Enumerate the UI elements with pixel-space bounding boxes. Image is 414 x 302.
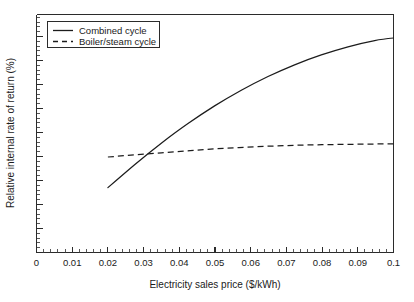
y-axis-ticks: [37, 17, 43, 252]
figure: 0 0.01 0.02 0.03 0.04 0.05 0.06 0.07 0.0…: [0, 0, 414, 302]
series-combined-cycle: [108, 38, 394, 188]
x-tick-label: 0.08: [313, 257, 332, 268]
legend-label-combined-cycle: Combined cycle: [79, 25, 147, 36]
x-tick-label: 0.02: [99, 257, 118, 268]
chart-screenshot: 0 0.01 0.02 0.03 0.04 0.05 0.06 0.07 0.0…: [0, 0, 414, 302]
data-series: [108, 38, 394, 188]
legend-label-boiler-steam-cycle: Boiler/steam cycle: [79, 36, 156, 47]
x-tick-label: 0.05: [206, 257, 225, 268]
x-tick-label: 0.01: [63, 257, 82, 268]
series-boiler-steam-cycle: [108, 144, 394, 157]
x-tick-label: 0: [34, 257, 39, 268]
x-tick-label: 0.04: [170, 257, 189, 268]
plot-frame: [37, 15, 394, 253]
x-axis-ticks: [37, 247, 394, 253]
x-tick-labels: 0 0.01 0.02 0.03 0.04 0.05 0.06 0.07 0.0…: [34, 257, 400, 268]
x-tick-label: 0.07: [277, 257, 296, 268]
legend[interactable]: Combined cycle Boiler/steam cycle: [48, 22, 160, 48]
x-axis-title: Electricity sales price ($/kWh): [149, 279, 280, 290]
x-tick-label: 0.03: [134, 257, 153, 268]
x-tick-label: 0.1: [387, 257, 400, 268]
x-tick-label: 0.06: [241, 257, 260, 268]
y-axis-title: Relative internal rate of return (%): [5, 58, 16, 208]
x-tick-label: 0.09: [349, 257, 368, 268]
